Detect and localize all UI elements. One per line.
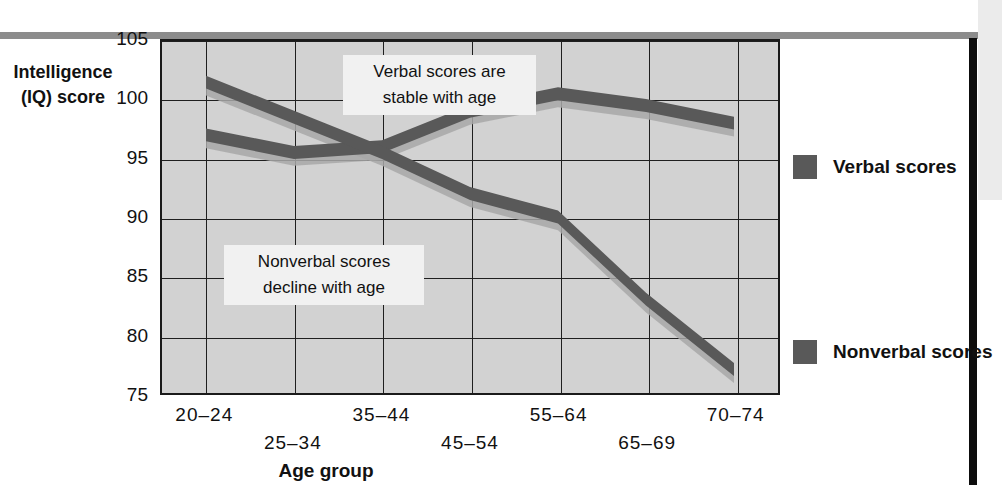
y-tick-90: 90: [102, 207, 148, 226]
annotation-verbal-line1: Verbal scores are: [351, 59, 528, 85]
x-tick-55-64: 55–64: [499, 404, 619, 426]
y-tick-85: 85: [102, 266, 148, 285]
x-axis-title-text: Age group: [279, 460, 374, 482]
y-tick-75: 75: [102, 385, 148, 404]
legend-item-nonverbal: Nonverbal scores: [793, 340, 992, 364]
x-tick-35-44: 35–44: [321, 404, 441, 426]
legend-label-verbal: Verbal scores: [833, 156, 957, 178]
x-tick-20-24: 20–24: [144, 404, 264, 426]
annotation-nonverbal: Nonverbal scores decline with age: [224, 245, 424, 305]
x-tick-70-74: 70–74: [676, 404, 796, 426]
x-tick-45-54: 45–54: [410, 432, 530, 454]
annotation-nonverbal-line1: Nonverbal scores: [232, 249, 416, 275]
annotation-nonverbal-line2: decline with age: [232, 275, 416, 301]
chart-figure: Intelligence (IQ) score 1051009590858075…: [0, 0, 1002, 495]
y-axis-title-line1: Intelligence: [8, 60, 118, 85]
x-tick-65-69: 65–69: [587, 432, 707, 454]
y-tick-95: 95: [102, 148, 148, 167]
y-tick-80: 80: [102, 326, 148, 345]
annotation-verbal: Verbal scores are stable with age: [343, 55, 536, 115]
legend-item-verbal: Verbal scores: [793, 155, 957, 179]
top-rule-divider: [0, 32, 1002, 39]
annotation-verbal-line2: stable with age: [351, 85, 528, 111]
right-edge-bar: [969, 38, 977, 485]
legend-swatch-nonverbal: [793, 340, 817, 364]
right-side-panel: [978, 0, 1002, 200]
y-tick-105: 105: [102, 29, 148, 48]
x-tick-25-34: 25–34: [233, 432, 353, 454]
legend-label-nonverbal: Nonverbal scores: [833, 341, 992, 363]
series-shadow-nonverbal: [206, 83, 734, 383]
legend-swatch-verbal: [793, 155, 817, 179]
x-axis-title: Age group: [0, 460, 1002, 482]
y-tick-100: 100: [102, 88, 148, 107]
